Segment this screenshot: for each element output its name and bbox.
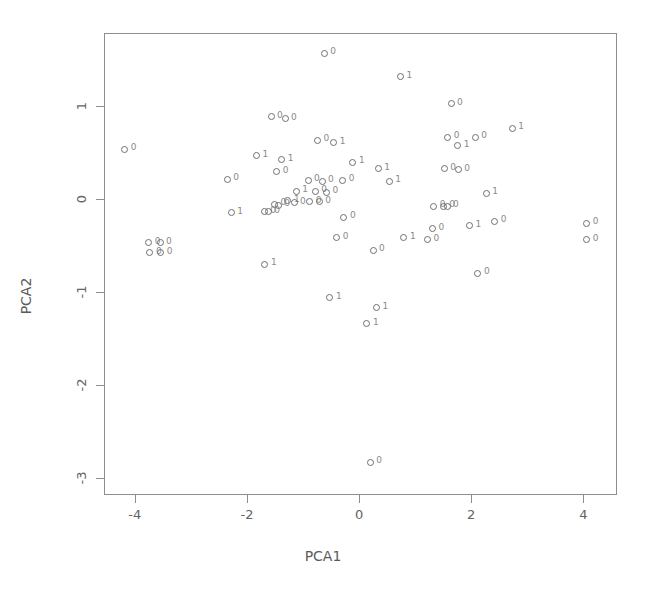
x-axis-tick-label: -4 <box>128 507 141 522</box>
y-axis-title-text: PCA2 <box>18 277 34 314</box>
y-axis-tick <box>96 199 104 200</box>
x-axis-tick <box>471 495 472 503</box>
x-axis-tick <box>135 495 136 503</box>
plot-frame <box>104 33 617 495</box>
scatter-plot-figure: 0100010001101111000000011001100000000100… <box>0 0 646 591</box>
y-axis-tick <box>96 385 104 386</box>
y-axis-tick-label: -2 <box>74 374 89 396</box>
x-axis-tick-label: 4 <box>579 507 587 522</box>
y-axis-tick-label: 0 <box>74 188 89 210</box>
x-axis-tick-label: -2 <box>240 507 253 522</box>
y-axis-tick <box>96 478 104 479</box>
y-axis-tick <box>96 106 104 107</box>
y-axis-tick-label: -3 <box>74 467 89 489</box>
y-axis-title: PCA2 <box>6 0 46 591</box>
y-axis-tick <box>96 292 104 293</box>
x-axis-tick <box>583 495 584 503</box>
x-axis-tick <box>359 495 360 503</box>
y-axis-tick-label: -1 <box>74 281 89 303</box>
x-axis-title: PCA1 <box>0 548 646 564</box>
x-axis-tick-label: 0 <box>355 507 363 522</box>
x-axis-tick-label: 2 <box>467 507 475 522</box>
x-axis-tick <box>247 495 248 503</box>
y-axis-tick-label: 1 <box>74 95 89 117</box>
